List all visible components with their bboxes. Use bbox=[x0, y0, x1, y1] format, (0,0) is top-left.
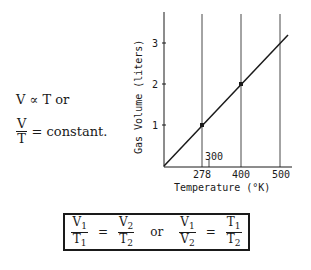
point-278-1 bbox=[200, 123, 204, 127]
volume-temperature-chart: 1 2 3 278 400 500 300 Temperature (°K) G… bbox=[0, 0, 311, 210]
v1-over-t1: V1 T1 bbox=[71, 216, 87, 249]
y-tick-2: 2 bbox=[152, 79, 158, 90]
x-tick-500: 500 bbox=[272, 169, 290, 180]
x-tick-400: 400 bbox=[232, 169, 250, 180]
y-tick-1: 1 bbox=[152, 120, 158, 131]
v1-over-v2: V1 V2 bbox=[179, 216, 195, 249]
t1-over-t2: T1 T2 bbox=[226, 216, 242, 249]
x-tick-278: 278 bbox=[193, 169, 211, 180]
x-axis-label: Temperature (°K) bbox=[174, 182, 270, 193]
y-axis-label: Gas Volume (liters) bbox=[133, 40, 144, 154]
x-tick-300: 300 bbox=[205, 151, 223, 162]
y-tick-3: 3 bbox=[152, 38, 158, 49]
charles-law-equation-box: V1 T1 = V2 T2 or V1 V2 = T1 T2 bbox=[63, 213, 250, 251]
v2-over-t2: V2 T2 bbox=[118, 216, 134, 249]
point-400-2 bbox=[239, 82, 243, 86]
data-line bbox=[164, 35, 288, 166]
